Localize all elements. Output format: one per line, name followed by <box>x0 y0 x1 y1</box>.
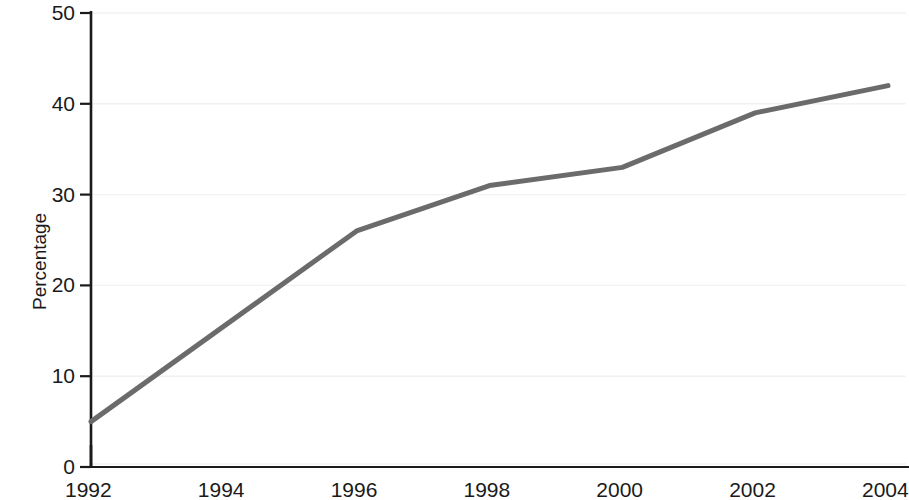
gridlines <box>91 13 906 464</box>
axis-lines <box>83 11 909 467</box>
data-series-line <box>91 86 888 422</box>
axis-ticks <box>80 13 91 467</box>
y-axis-tick-label: 30 <box>52 184 75 205</box>
chart-plot-area <box>0 0 909 500</box>
y-axis-tick-label: 10 <box>52 365 75 386</box>
y-axis-tick-label: 50 <box>52 2 75 23</box>
y-axis-tick-label: 0 <box>63 456 75 477</box>
line-chart: Percentage 01020304050 19921994199619982… <box>0 0 909 500</box>
y-axis-tick-label: 40 <box>52 93 75 114</box>
y-axis-title: Percentage <box>30 213 49 310</box>
y-axis-tick-label: 20 <box>52 274 75 295</box>
x-axis-tick-label: 2004 <box>0 479 909 500</box>
